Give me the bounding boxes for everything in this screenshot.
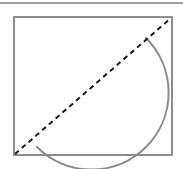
geometry-figure-canvas <box>0 0 183 169</box>
dashed-diagonal <box>15 18 171 154</box>
major-arc <box>37 38 169 169</box>
figure-container: Geometric figure: rectangle with diagona… <box>0 0 183 169</box>
